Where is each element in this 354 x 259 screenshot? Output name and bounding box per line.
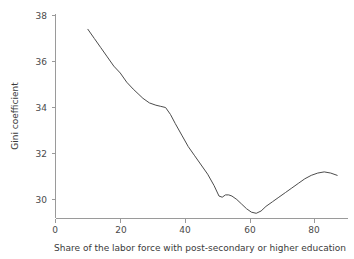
y-tick-label-32: 32 — [36, 149, 47, 159]
y-tick-label-36: 36 — [36, 57, 48, 67]
x-tick-label-60: 60 — [244, 225, 256, 235]
line-chart: 38 36 34 32 30 0 20 40 60 80 Share of th… — [0, 0, 354, 259]
x-tick-label-20: 20 — [115, 225, 127, 235]
data-series-gini-coefficient — [88, 29, 337, 213]
x-tick-label-80: 80 — [308, 225, 320, 235]
chart-figure: 38 36 34 32 30 0 20 40 60 80 Share of th… — [0, 0, 354, 259]
x-axis-ticks — [56, 219, 315, 223]
y-axis-ticks — [52, 16, 56, 200]
x-tick-label-40: 40 — [179, 225, 191, 235]
y-tick-label-34: 34 — [36, 103, 48, 113]
y-axis-title: Gini coefficient — [10, 82, 20, 150]
y-tick-label-38: 38 — [36, 11, 48, 21]
y-tick-label-30: 30 — [36, 195, 48, 205]
x-tick-label-0: 0 — [52, 225, 58, 235]
x-axis-title: Share of the labor force with post-secon… — [54, 243, 346, 253]
